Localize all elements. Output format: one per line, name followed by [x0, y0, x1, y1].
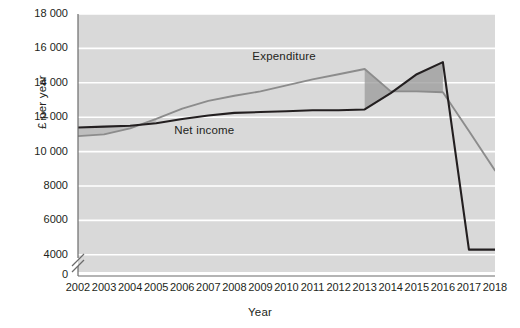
x-tick-2018: 2018 — [475, 281, 515, 293]
y-tick-6000: 6000 — [8, 213, 68, 225]
y-tick-10000: 10 000 — [8, 145, 68, 157]
y-tick-4000: 4000 — [8, 248, 68, 260]
series-label-net-income: Net income — [174, 124, 234, 136]
series-label-expenditure: Expenditure — [252, 50, 316, 62]
chart-figure: 40006000800010 00012 00014 00016 00018 0… — [0, 0, 520, 328]
x-axis-title: Year — [0, 306, 520, 318]
y-axis-title: £ per year — [36, 62, 48, 142]
y-tick-8000: 8000 — [8, 179, 68, 191]
y-tick-zero: 0 — [8, 268, 68, 280]
y-tick-16000: 16 000 — [8, 41, 68, 53]
y-tick-18000: 18 000 — [8, 7, 68, 19]
